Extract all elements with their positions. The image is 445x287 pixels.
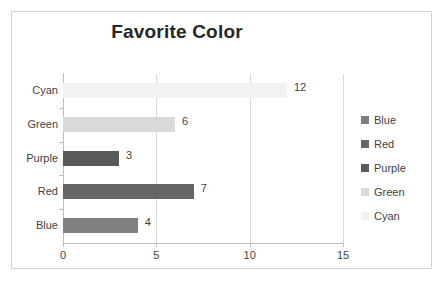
x-axis-tick — [250, 243, 251, 247]
chart-legend: BlueRedPurpleGreenCyan — [361, 108, 431, 228]
legend-label: Blue — [374, 114, 396, 126]
legend-label: Cyan — [374, 210, 400, 222]
bar-value-label: 3 — [126, 149, 132, 161]
bar-blue[interactable] — [63, 218, 138, 233]
legend-label: Red — [374, 138, 394, 150]
bar-cyan[interactable] — [63, 83, 287, 98]
x-axis-tick — [343, 243, 344, 247]
x-axis-tick — [63, 243, 64, 247]
category-label-green: Green — [12, 118, 58, 130]
y-axis-tick — [59, 108, 63, 109]
chart-container: Favorite Color CyanGreenPurpleRedBlue 12… — [11, 11, 432, 269]
category-label-cyan: Cyan — [12, 84, 58, 96]
bar-row: 4 — [63, 209, 343, 243]
legend-label: Green — [374, 186, 405, 198]
legend-item-purple[interactable]: Purple — [361, 156, 431, 180]
legend-item-red[interactable]: Red — [361, 132, 431, 156]
category-label-blue: Blue — [12, 219, 58, 231]
plot-area: 126374 — [63, 74, 343, 243]
bar-row: 12 — [63, 74, 343, 108]
y-axis-tick — [59, 142, 63, 143]
bar-value-label: 12 — [294, 81, 306, 93]
legend-swatch-icon — [361, 212, 369, 220]
bar-value-label: 4 — [145, 216, 151, 228]
y-axis-tick — [59, 209, 63, 210]
bar-green[interactable] — [63, 117, 175, 132]
bar-value-label: 6 — [182, 115, 188, 127]
bar-purple[interactable] — [63, 151, 119, 166]
category-axis-labels: CyanGreenPurpleRedBlue — [12, 74, 58, 243]
legend-label: Purple — [374, 162, 406, 174]
x-axis-label-10: 10 — [244, 249, 256, 261]
x-axis-tick — [156, 243, 157, 247]
bar-red[interactable] — [63, 184, 194, 199]
legend-item-blue[interactable]: Blue — [361, 108, 431, 132]
bar-row: 7 — [63, 175, 343, 209]
category-label-purple: Purple — [12, 152, 58, 164]
x-axis-line — [63, 243, 344, 244]
legend-swatch-icon — [361, 140, 369, 148]
bar-value-label: 7 — [201, 182, 207, 194]
x-axis-label-5: 5 — [153, 249, 159, 261]
x-axis-label-15: 15 — [337, 249, 349, 261]
bar-row: 3 — [63, 142, 343, 176]
legend-item-cyan[interactable]: Cyan — [361, 204, 431, 228]
chart-title: Favorite Color — [12, 21, 342, 43]
category-label-red: Red — [12, 185, 58, 197]
legend-swatch-icon — [361, 164, 369, 172]
y-axis-tick — [59, 175, 63, 176]
x-axis-label-0: 0 — [60, 249, 66, 261]
legend-swatch-icon — [361, 188, 369, 196]
legend-item-green[interactable]: Green — [361, 180, 431, 204]
gridline-15 — [343, 74, 344, 243]
bar-row: 6 — [63, 108, 343, 142]
legend-swatch-icon — [361, 116, 369, 124]
